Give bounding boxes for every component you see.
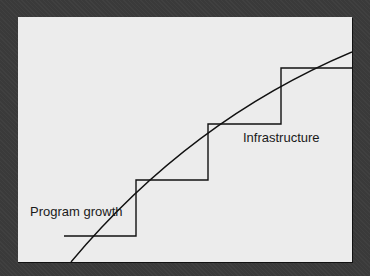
infrastructure-label: Infrastructure [243, 131, 320, 144]
program-growth-curve [71, 52, 352, 262]
diagram-panel: Program growth Infrastructure [18, 17, 352, 262]
program-growth-label: Program growth [30, 205, 122, 218]
